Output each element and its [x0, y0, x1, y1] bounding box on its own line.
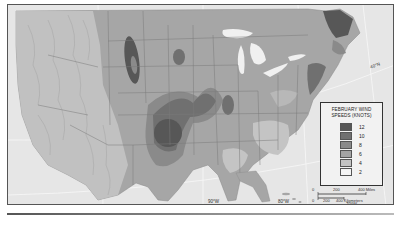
legend-label: 8	[359, 142, 362, 148]
scale-km-end: 400 Kilometers	[336, 198, 363, 203]
legend-label: 4	[359, 160, 362, 166]
lon-label-90w: 90°W	[208, 199, 219, 204]
legend-swatch	[340, 141, 352, 149]
scale-miles-zero: 0	[312, 187, 314, 192]
legend-swatch	[340, 159, 352, 167]
scale-km-zero: 0	[312, 198, 314, 203]
legend-item-4: 4	[340, 159, 380, 168]
legend-label: 12	[359, 124, 365, 130]
legend-swatch	[340, 168, 352, 176]
legend-item-10: 10	[340, 132, 380, 141]
legend-item-8: 8	[340, 141, 380, 150]
legend-label: 6	[359, 151, 362, 157]
bottom-rule	[7, 213, 394, 215]
legend-swatch	[340, 123, 352, 131]
scale-miles-end: 400 Miles	[358, 187, 375, 192]
legend-swatch	[340, 150, 352, 158]
lon-label-80w: 80°W	[278, 199, 289, 204]
legend-item-6: 6	[340, 150, 380, 159]
legend-item-2: 2	[340, 168, 380, 177]
legend-title: FEBRUARY WIND SPEEDS (KNOTS)	[323, 107, 380, 119]
legend-swatch	[340, 132, 352, 140]
scale-miles-mid: 200	[333, 187, 340, 192]
legend-title-line2: SPEEDS (KNOTS)	[323, 113, 380, 119]
legend-label: 2	[359, 169, 362, 175]
map-frame: 40°N 30°N 90°W 80°W 70°W FEBRUARY WIND S…	[7, 4, 394, 205]
legend-label: 10	[359, 133, 365, 139]
legend-item-12: 12	[340, 123, 380, 132]
scale-km-mid: 200	[323, 198, 330, 203]
map-legend: FEBRUARY WIND SPEEDS (KNOTS) 12 10 8 6 4…	[320, 102, 383, 186]
